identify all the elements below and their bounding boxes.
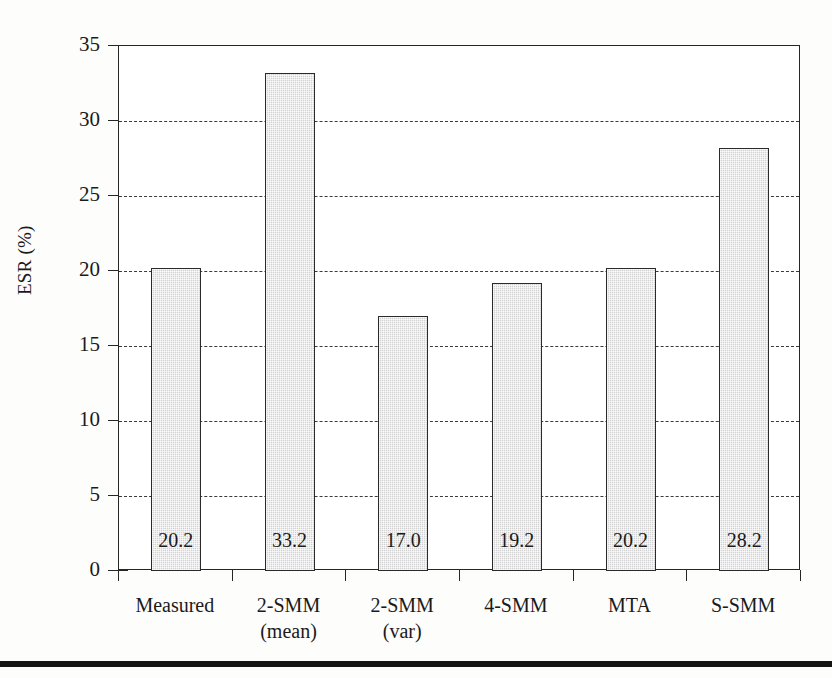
- y-tick-label-5: 5: [40, 484, 100, 505]
- plot-area: 20.233.217.019.220.228.2: [118, 45, 800, 570]
- x-tick-label: S-SMM: [668, 592, 818, 618]
- x-tick-mark: [118, 570, 119, 581]
- bar: 17.0: [378, 316, 428, 571]
- x-tick-mark: [232, 570, 233, 581]
- figure-container: ESR (%) 05101520253035 20.233.217.019.22…: [0, 0, 832, 678]
- bar-value-label: 19.2: [493, 530, 541, 550]
- bar-value-label: 20.2: [152, 530, 200, 550]
- bar: 19.2: [492, 283, 542, 571]
- bar: 20.2: [151, 268, 201, 571]
- y-tick-label-15: 15: [40, 334, 100, 355]
- gridline-20: [119, 271, 799, 272]
- x-tick-label-line: S-SMM: [668, 592, 818, 618]
- x-tick-label-line: (var): [327, 618, 477, 644]
- y-tick-label-10: 10: [40, 409, 100, 430]
- y-tick-label-0: 0: [40, 559, 100, 580]
- bottom-rule: [0, 661, 832, 667]
- y-tick-label-25: 25: [40, 184, 100, 205]
- bar: 28.2: [719, 148, 769, 571]
- bar-value-label: 33.2: [266, 530, 314, 550]
- gridline-5: [119, 496, 799, 497]
- bar-value-label: 28.2: [720, 530, 768, 550]
- bar-value-label: 20.2: [607, 530, 655, 550]
- y-tick-label-20: 20: [40, 259, 100, 280]
- gridline-10: [119, 421, 799, 422]
- x-tick-mark: [686, 570, 687, 581]
- y-tick-label-30: 30: [40, 109, 100, 130]
- x-tick-mark: [345, 570, 346, 581]
- gridline-30: [119, 121, 799, 122]
- x-tick-mark: [800, 570, 801, 581]
- y-tick-label-35: 35: [40, 34, 100, 55]
- bar-value-label: 17.0: [379, 530, 427, 550]
- x-tick-mark: [459, 570, 460, 581]
- gridline-15: [119, 346, 799, 347]
- bar: 20.2: [606, 268, 656, 571]
- gridline-25: [119, 196, 799, 197]
- x-tick-mark: [573, 570, 574, 581]
- bar: 33.2: [265, 73, 315, 571]
